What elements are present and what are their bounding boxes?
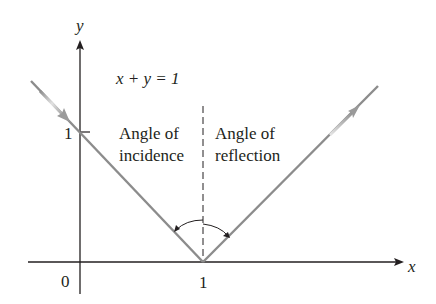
angle-arcs <box>174 220 230 238</box>
y-axis-label: y <box>74 16 84 35</box>
incidence-label-line1: Angle of <box>119 124 179 143</box>
y-axis <box>76 40 90 294</box>
reflection-diagram: y x 0 1 1 x + y = 1 Angle of incidence A… <box>0 0 436 304</box>
reflection-label-line2: reflection <box>215 146 281 165</box>
x-axis-label: x <box>407 257 416 276</box>
origin-label: 0 <box>61 272 70 291</box>
reflection-label-line1: Angle of <box>215 124 275 143</box>
y-tick-label: 1 <box>64 124 73 143</box>
incidence-arc-arrow-icon <box>174 225 180 232</box>
reflected-ray <box>203 86 378 262</box>
equation-label: x + y = 1 <box>115 69 180 88</box>
incidence-label-line2: incidence <box>119 146 184 165</box>
x-axis <box>28 258 404 266</box>
incident-ray <box>31 81 203 262</box>
x-tick-label: 1 <box>199 273 208 292</box>
